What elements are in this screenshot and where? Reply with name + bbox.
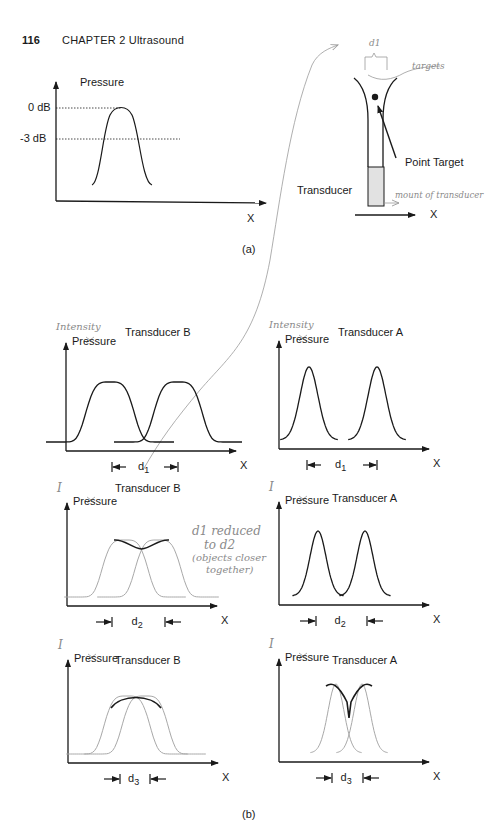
distance-label: d2 <box>335 614 346 629</box>
fig-b-caption: (b) <box>242 808 255 820</box>
distance-subscript: 1 <box>144 465 149 475</box>
distance-label: d3 <box>128 772 139 787</box>
beam-profile-2 <box>84 696 206 754</box>
fig-a-transducer-diagram <box>143 45 440 470</box>
panel-title: Transducer B <box>125 326 191 338</box>
transducer-label: Transducer <box>297 184 352 196</box>
panel-b-row3-A <box>279 653 429 783</box>
beam-profile-1 <box>64 540 186 597</box>
x-axis <box>56 201 266 203</box>
distance-subscript: 3 <box>347 776 352 786</box>
panel-b-row1-A <box>279 335 429 470</box>
panel-title: Transducer A <box>332 654 397 666</box>
distance-label: d3 <box>341 771 352 786</box>
pencil-long-arrow <box>143 45 338 470</box>
pencil-note-line-1: d1 reduced <box>192 524 266 538</box>
beam-profile-2 <box>114 382 242 442</box>
panel-title: Transducer B <box>115 482 181 494</box>
pencil-note-line-2: to d2 <box>192 538 266 552</box>
beam-profile-1 <box>280 367 338 440</box>
beam-profile-2 <box>339 531 390 596</box>
beam-profile-curve <box>92 108 152 186</box>
beam-profile-1 <box>66 696 188 754</box>
distance-label: d2 <box>132 615 143 630</box>
figure-canvas <box>0 0 494 831</box>
fig-a-y-label: Pressure <box>80 76 124 88</box>
panel-title: Transducer A <box>338 326 403 338</box>
beam-left-edge <box>354 78 368 167</box>
distance-subscript: 1 <box>341 463 346 473</box>
pencil-note-line-4: together) <box>192 564 266 576</box>
panel-title: Transducer A <box>332 492 397 504</box>
point-target-label: Point Target <box>405 156 464 168</box>
pencil-targets-label: targets <box>412 61 445 71</box>
pencil-y-label: I <box>57 481 62 495</box>
distance-subscript: 3 <box>134 777 139 787</box>
distance-label: d1 <box>138 460 149 475</box>
panel-y-label: Pressure <box>285 494 329 506</box>
panel-b-row1-B <box>46 337 242 472</box>
distance-subscript: 2 <box>138 620 143 630</box>
panel-x-label: X <box>222 771 229 783</box>
pencil-mount-label: mount of transducer <box>395 190 483 200</box>
pencil-note-line-3: (objects closer <box>192 552 266 564</box>
pencil-y-label: I <box>58 638 63 652</box>
panel-x-label: X <box>433 770 440 782</box>
point-target-arrow <box>378 106 396 158</box>
panel-y-label: Pressure <box>74 652 118 664</box>
panel-title: Transducer B <box>115 654 181 666</box>
beam-profile-1 <box>292 531 343 596</box>
combined-response-curve <box>114 540 169 549</box>
point-target-dot <box>372 94 378 100</box>
distance-label: d1 <box>335 458 346 473</box>
beam-profile-1 <box>46 382 174 442</box>
transducer-block <box>368 167 384 206</box>
pencil-note: d1 reduced to d2 (objects closer togethe… <box>192 524 266 576</box>
pencil-y-label: I <box>269 480 274 494</box>
fig-a-tick-0db: 0 dB <box>28 101 51 113</box>
panel-y-label: Pressure <box>285 651 329 663</box>
panel-x-label: X <box>221 614 228 626</box>
pencil-d1-bracket <box>365 53 387 70</box>
fig-a-diagram-x-label: X <box>430 208 437 220</box>
beam-profile-2 <box>348 367 406 440</box>
combined-response-curve <box>111 698 161 709</box>
panel-b-row3-B <box>66 654 218 784</box>
panel-y-label: Pressure <box>285 333 329 345</box>
pencil-d1-label: d1 <box>369 38 381 48</box>
panel-y-label: Pressure <box>72 335 116 347</box>
beam-profile-1 <box>310 684 361 753</box>
beam-profile-2 <box>336 684 387 753</box>
panel-b-row2-A <box>279 496 429 626</box>
pencil-y-label: Intensity <box>269 319 314 330</box>
fig-a-plot <box>56 82 266 203</box>
fig-a-x-label: X <box>247 212 254 224</box>
panel-x-label: X <box>240 459 247 471</box>
fig-a-caption: (a) <box>242 243 255 255</box>
distance-subscript: 2 <box>341 619 346 629</box>
panel-y-label: Pressure <box>73 495 117 507</box>
panel-x-label: X <box>433 457 440 469</box>
pencil-y-label: I <box>269 637 274 651</box>
pencil-y-label: Intensity <box>56 321 101 332</box>
fig-a-tick-minus3db: -3 dB <box>20 132 46 144</box>
panel-x-label: X <box>433 613 440 625</box>
